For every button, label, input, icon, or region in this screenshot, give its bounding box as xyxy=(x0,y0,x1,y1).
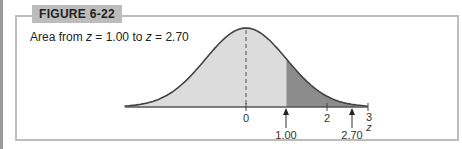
shaded-area xyxy=(287,59,356,107)
arrow-2-head-icon xyxy=(349,108,355,115)
tick-label-2: 2 xyxy=(324,112,330,124)
normal-curve-chart: 0 2 3 z 1.00 2.70 xyxy=(0,0,462,149)
arrow-label-2: 2.70 xyxy=(341,129,362,141)
arrow-label-1: 1.00 xyxy=(275,129,296,141)
tick-label-0: 0 xyxy=(243,112,249,124)
arrow-1-head-icon xyxy=(283,108,289,115)
axis-label-z: z xyxy=(365,121,372,133)
